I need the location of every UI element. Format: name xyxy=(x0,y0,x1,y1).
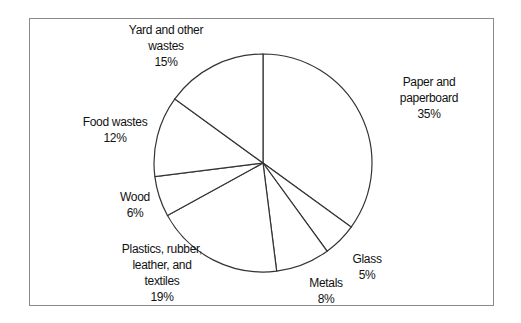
label-text: textiles xyxy=(102,273,222,289)
label-food: Food wastes 12% xyxy=(75,114,155,146)
label-wood: Wood 6% xyxy=(110,189,160,221)
label-pct: 8% xyxy=(298,291,354,307)
label-text: Glass xyxy=(342,251,392,267)
label-text: leather, and xyxy=(102,257,222,273)
label-metals: Metals 8% xyxy=(298,275,354,307)
label-pct: 19% xyxy=(102,289,222,305)
label-text: Paper and xyxy=(374,74,484,90)
pie-slices xyxy=(154,54,372,272)
label-pct: 12% xyxy=(75,130,155,146)
label-text: paperboard xyxy=(374,90,484,106)
label-text: Wood xyxy=(110,189,160,205)
label-pct: 6% xyxy=(110,205,160,221)
label-text: wastes xyxy=(116,38,216,54)
label-paper: Paper and paperboard 35% xyxy=(374,74,484,122)
label-pct: 15% xyxy=(116,54,216,70)
label-plastics: Plastics, rubber, leather, and textiles … xyxy=(102,241,222,305)
label-yard: Yard and other wastes 15% xyxy=(116,22,216,70)
pie-chart xyxy=(0,0,521,323)
label-text: Plastics, rubber, xyxy=(102,241,222,257)
label-text: Yard and other xyxy=(116,22,216,38)
label-pct: 35% xyxy=(374,106,484,122)
label-text: Food wastes xyxy=(75,114,155,130)
label-text: Metals xyxy=(298,275,354,291)
